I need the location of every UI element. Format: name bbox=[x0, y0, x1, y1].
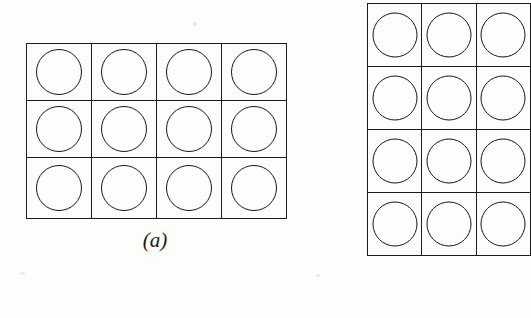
figure-root: (a) bbox=[0, 0, 531, 318]
circle-icon bbox=[426, 139, 471, 184]
grid-cell-a-r2c3 bbox=[157, 101, 222, 158]
grid-cell-b-r2c2 bbox=[422, 67, 476, 130]
circle-icon bbox=[481, 202, 526, 247]
table-row bbox=[368, 4, 531, 67]
circle-icon bbox=[426, 13, 471, 58]
circle-icon bbox=[372, 13, 417, 58]
grid-cell-b-r1c2 bbox=[422, 4, 476, 67]
circle-icon bbox=[372, 139, 417, 184]
grid-cell-b-r4c2 bbox=[422, 193, 476, 256]
table-row bbox=[368, 193, 531, 256]
table-row bbox=[27, 44, 287, 101]
panel-a: (a) bbox=[0, 0, 330, 318]
circle-icon bbox=[36, 49, 82, 95]
circle-icon bbox=[372, 202, 417, 247]
grid-cell-b-r3c3 bbox=[476, 130, 530, 193]
circle-icon bbox=[166, 106, 212, 152]
circle-icon bbox=[231, 165, 277, 211]
circle-icon bbox=[231, 49, 277, 95]
circle-icon bbox=[101, 165, 147, 211]
grid-cell-b-r1c3 bbox=[476, 4, 530, 67]
panel-b: (b) bbox=[330, 0, 531, 318]
circle-icon bbox=[481, 13, 526, 58]
circle-icon bbox=[36, 165, 82, 211]
grid-cell-a-r2c1 bbox=[27, 101, 92, 158]
circle-icon bbox=[166, 49, 212, 95]
grid-b-table bbox=[367, 3, 531, 256]
circle-icon bbox=[36, 106, 82, 152]
grid-cell-a-r3c3 bbox=[157, 158, 222, 219]
table-row bbox=[368, 67, 531, 130]
circle-icon bbox=[166, 165, 212, 211]
table-row bbox=[368, 130, 531, 193]
table-row bbox=[27, 101, 287, 158]
grid-cell-a-r3c1 bbox=[27, 158, 92, 219]
circle-icon bbox=[426, 202, 471, 247]
grid-a-table bbox=[26, 43, 287, 219]
grid-cell-a-r3c2 bbox=[92, 158, 157, 219]
grid-cell-b-r3c2 bbox=[422, 130, 476, 193]
circle-icon bbox=[481, 139, 526, 184]
grid-cell-a-r2c4 bbox=[222, 101, 287, 158]
grid-cell-b-r1c1 bbox=[368, 4, 422, 67]
grid-cell-a-r2c2 bbox=[92, 101, 157, 158]
grid-a bbox=[26, 43, 287, 219]
circle-icon bbox=[231, 106, 277, 152]
table-row bbox=[27, 158, 287, 219]
grid-cell-b-r2c1 bbox=[368, 67, 422, 130]
grid-cell-b-r4c1 bbox=[368, 193, 422, 256]
grid-cell-b-r4c3 bbox=[476, 193, 530, 256]
circle-icon bbox=[372, 76, 417, 121]
grid-cell-b-r2c3 bbox=[476, 67, 530, 130]
circle-icon bbox=[426, 76, 471, 121]
circle-icon bbox=[101, 106, 147, 152]
grid-cell-a-r1c2 bbox=[92, 44, 157, 101]
grid-cell-a-r1c1 bbox=[27, 44, 92, 101]
grid-cell-a-r1c4 bbox=[222, 44, 287, 101]
grid-cell-a-r1c3 bbox=[157, 44, 222, 101]
grid-b bbox=[367, 3, 531, 256]
circle-icon bbox=[101, 49, 147, 95]
panel-label-a: (a) bbox=[0, 228, 310, 253]
grid-cell-b-r3c1 bbox=[368, 130, 422, 193]
circle-icon bbox=[481, 76, 526, 121]
grid-cell-a-r3c4 bbox=[222, 158, 287, 219]
